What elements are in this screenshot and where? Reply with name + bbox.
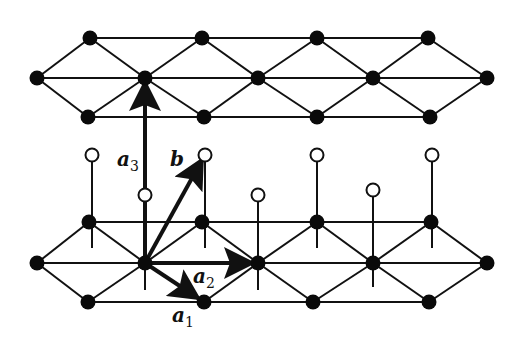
bond: [317, 222, 373, 263]
filled-atom: [83, 31, 98, 46]
filled-atom: [197, 110, 212, 125]
bond: [37, 263, 88, 302]
bond: [373, 263, 429, 302]
open-atom: [311, 149, 324, 162]
bond: [428, 38, 487, 78]
vector-b: [145, 160, 202, 263]
filled-atom: [480, 71, 495, 86]
open-atoms: [86, 149, 439, 202]
filled-atom: [251, 71, 266, 86]
filled-atom: [30, 256, 45, 271]
bond: [317, 78, 373, 117]
label-a2: a2: [193, 264, 215, 291]
bond: [145, 38, 202, 78]
bond: [37, 222, 89, 263]
filled-atom: [310, 215, 325, 230]
filled-atom: [195, 215, 210, 230]
vector-a1: [145, 263, 198, 298]
filled-atom: [424, 215, 439, 230]
filled-atom: [138, 256, 153, 271]
label-a3: a3: [117, 147, 139, 174]
filled-atom: [138, 71, 153, 86]
bond: [373, 78, 430, 117]
open-atom: [86, 149, 99, 162]
filled-atom: [197, 295, 212, 310]
bond: [90, 38, 145, 78]
filled-atom: [421, 31, 436, 46]
bond: [88, 263, 145, 302]
bond: [37, 38, 90, 78]
open-atom: [367, 184, 380, 197]
bond: [373, 222, 431, 263]
open-atom: [199, 149, 212, 162]
bond: [430, 78, 487, 117]
bond: [373, 38, 428, 78]
bond: [202, 38, 258, 78]
bond: [145, 78, 204, 117]
lattice-diagram: a1a2a3b: [0, 0, 517, 345]
bond: [89, 222, 145, 263]
open-atom: [426, 149, 439, 162]
filled-atom: [30, 71, 45, 86]
bond: [313, 263, 373, 302]
filled-atom: [480, 256, 495, 271]
filled-atom: [423, 110, 438, 125]
bond: [258, 38, 317, 78]
bond: [258, 263, 313, 302]
filled-atom: [310, 31, 325, 46]
filled-atoms: [30, 31, 495, 310]
open-atom: [139, 189, 152, 202]
filled-atom: [306, 295, 321, 310]
bond: [317, 38, 373, 78]
bond: [88, 78, 145, 117]
label-a1: a1: [172, 303, 194, 330]
filled-atom: [81, 110, 96, 125]
bond: [258, 78, 317, 117]
filled-atom: [366, 256, 381, 271]
filled-atom: [310, 110, 325, 125]
bond: [202, 222, 258, 263]
filled-atom: [366, 71, 381, 86]
filled-atom: [82, 215, 97, 230]
open-atom: [252, 189, 265, 202]
filled-atom: [251, 256, 266, 271]
filled-atom: [81, 295, 96, 310]
bond: [431, 222, 487, 263]
filled-atom: [195, 31, 210, 46]
bond: [258, 222, 317, 263]
filled-atom: [422, 295, 437, 310]
bond: [145, 222, 202, 263]
bond: [37, 78, 88, 117]
bond: [204, 78, 258, 117]
bond: [429, 263, 487, 302]
label-b: b: [170, 147, 184, 171]
